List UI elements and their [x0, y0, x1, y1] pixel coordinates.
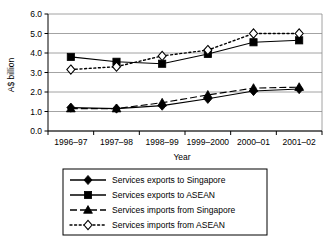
chart-legend: Services exports to SingaporeServices ex… [63, 169, 267, 235]
y-axis-tick-label: 3.0 [30, 68, 42, 78]
marker-filled-square [250, 39, 257, 46]
x-axis-tick-label: 1997–98 [100, 137, 133, 147]
legend-item-label: Services exports to ASEAN [112, 190, 215, 200]
legend-item-label: Services imports from ASEAN [112, 220, 225, 230]
y-axis-tick-label: 2.0 [30, 87, 42, 97]
y-axis-tick-label: 5.0 [30, 29, 42, 39]
legend-item-label: Services exports to Singapore [112, 175, 226, 185]
y-axis-title: A$ billion [6, 57, 16, 92]
x-axis-tick-label: 1998–99 [146, 137, 179, 147]
y-axis-tick-label: 0.0 [30, 126, 42, 136]
y-axis-tick-label: 4.0 [30, 48, 42, 58]
y-axis-tick-label: 6.0 [30, 9, 42, 19]
services-trade-line-chart: 0.01.02.03.04.05.06.0 1996–971997–981998… [0, 0, 330, 241]
chart-container: 0.01.02.03.04.05.06.0 1996–971997–981998… [0, 0, 330, 241]
marker-filled-square [67, 53, 74, 60]
x-axis-tick-label: 2001–02 [283, 137, 316, 147]
x-axis-tick-label: 1996–97 [54, 137, 87, 147]
x-axis-tick-label: 2000–01 [237, 137, 270, 147]
x-axis-tick-label: 1999–2000 [187, 137, 230, 147]
y-axis-tick-label: 1.0 [30, 107, 42, 117]
legend-item-label: Services imports from Singapore [112, 205, 236, 215]
x-axis-title: Year [173, 152, 190, 162]
marker-filled-square [84, 191, 91, 198]
